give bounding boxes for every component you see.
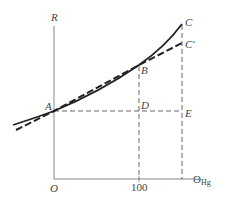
point-label-D: D	[140, 99, 149, 111]
x-tick-label-100: 100	[131, 181, 148, 193]
origin-label: O	[50, 182, 58, 194]
resistance-temperature-diagram: R O 100 ΘHg A B C C′ D E	[0, 0, 226, 199]
linear-approximation-curve	[16, 43, 182, 130]
point-label-B: B	[141, 64, 148, 76]
x-axis-label-subscript: Hg	[201, 178, 211, 187]
true-resistance-curve	[13, 24, 182, 125]
y-axis-label: R	[50, 11, 58, 23]
x-axis-label-theta: Θ	[193, 173, 201, 185]
point-label-C: C	[185, 16, 193, 28]
point-label-C-prime: C′	[185, 38, 195, 50]
x-axis-label: ΘHg	[193, 173, 211, 187]
point-label-E: E	[184, 107, 192, 119]
point-label-A: A	[44, 100, 52, 112]
